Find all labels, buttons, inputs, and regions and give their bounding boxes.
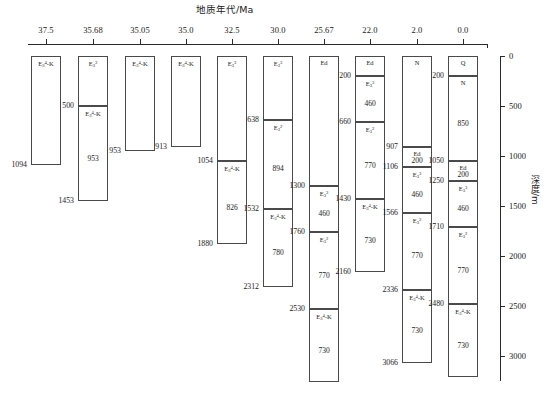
- stratigraphic-unit[interactable]: E34-K: [125, 56, 155, 151]
- unit-thickness-label: 730: [310, 347, 338, 355]
- depth-tick-label: 0: [509, 51, 513, 61]
- unit-thickness-label: 770: [449, 267, 477, 275]
- stratigraphic-unit[interactable]: Ed: [355, 56, 385, 76]
- unit-depth-label: 1054: [175, 157, 213, 165]
- unit-depth-label: 1430: [313, 195, 351, 203]
- unit-depth-label: 2480: [406, 300, 444, 308]
- stratigraphic-figure: 地质年代/Ma 深度/m 37.535.6835.0535.032.530.02…: [0, 0, 545, 407]
- depth-tick: [500, 156, 505, 157]
- unit-depth-label: 2160: [313, 268, 351, 276]
- unit-code-label: E34-K: [218, 164, 246, 174]
- unit-depth-label: 2336: [360, 286, 398, 294]
- stratigraphic-unit[interactable]: E33460: [402, 167, 432, 213]
- age-tick-label: 22.0: [362, 25, 377, 35]
- stratigraphic-unit[interactable]: E34-K730: [448, 304, 478, 377]
- depth-tick-label: 2000: [509, 251, 526, 261]
- unit-code-label: E33: [356, 79, 384, 89]
- stratigraphic-unit[interactable]: N: [402, 56, 432, 147]
- age-tick-label: 35.05: [130, 25, 150, 35]
- stratigraphic-unit[interactable]: E33: [217, 56, 247, 161]
- unit-code-label: E34-K: [79, 109, 107, 119]
- depth-axis-line: [500, 56, 501, 381]
- unit-code-label: E34-K: [310, 312, 338, 322]
- stratigraphic-unit[interactable]: E33: [263, 56, 293, 120]
- depth-tick-label: 500: [509, 101, 522, 111]
- unit-depth-label: 660: [313, 118, 351, 126]
- unit-depth-label: 500: [36, 102, 74, 110]
- unit-depth-label: 2530: [267, 305, 305, 313]
- depth-tick-label: 2500: [509, 301, 526, 311]
- stratigraphic-unit[interactable]: E34-K780: [263, 209, 293, 287]
- unit-depth-label: 1050: [406, 157, 444, 165]
- unit-depth-label: 200: [406, 72, 444, 80]
- unit-thickness-label: 200: [449, 171, 477, 179]
- unit-depth-label: 1094: [0, 161, 27, 169]
- depth-tick: [500, 106, 505, 107]
- stratigraphic-unit[interactable]: E34-K826: [217, 161, 247, 244]
- unit-code-label: E34-K: [126, 59, 154, 69]
- age-axis-line: [28, 44, 487, 45]
- age-tick-label: 0.0: [458, 25, 469, 35]
- age-tick: [463, 39, 464, 44]
- depth-tick: [500, 56, 505, 57]
- age-tick-label: 37.5: [38, 25, 53, 35]
- stratigraphic-unit[interactable]: E32894: [263, 120, 293, 209]
- stratigraphic-unit[interactable]: E33460: [448, 181, 478, 227]
- unit-depth-label: 1106: [360, 163, 398, 171]
- age-tick: [93, 39, 94, 44]
- stratigraphic-unit[interactable]: E32770: [355, 122, 385, 199]
- age-tick: [417, 39, 418, 44]
- unit-depth-label: 1453: [36, 197, 74, 205]
- age-tick-label: 32.5: [224, 25, 239, 35]
- age-axis-end-cap: [487, 44, 488, 48]
- unit-code-label: E32: [356, 125, 384, 135]
- unit-code-label: N: [449, 79, 477, 86]
- unit-code-label: E34-K: [449, 307, 477, 317]
- stratigraphic-unit[interactable]: E34-K730: [309, 309, 339, 382]
- stratigraphic-unit[interactable]: E33460: [309, 186, 339, 232]
- stratigraphic-unit[interactable]: E33460: [355, 76, 385, 122]
- unit-code-label: E32: [264, 123, 292, 133]
- stratigraphic-unit[interactable]: E32770: [448, 227, 478, 304]
- depth-tick: [500, 356, 505, 357]
- stratigraphic-unit[interactable]: Q: [448, 56, 478, 76]
- age-tick-label: 2.0: [412, 25, 423, 35]
- unit-thickness-label: 730: [356, 237, 384, 245]
- unit-code-label: E34-K: [32, 59, 60, 69]
- unit-thickness-label: 780: [264, 249, 292, 257]
- stratigraphic-unit[interactable]: E34-K: [171, 56, 201, 147]
- unit-code-label: Ed: [310, 59, 338, 66]
- unit-code-label: E32: [449, 230, 477, 240]
- unit-thickness-label: 770: [403, 252, 431, 260]
- unit-code-label: E34-K: [172, 59, 200, 69]
- age-tick: [232, 39, 233, 44]
- unit-code-label: E34-K: [264, 212, 292, 222]
- unit-code-label: E33: [449, 184, 477, 194]
- age-axis-title: 地质年代/Ma: [196, 2, 253, 16]
- age-tick: [140, 39, 141, 44]
- stratigraphic-unit[interactable]: Ed200: [448, 161, 478, 181]
- depth-tick: [500, 256, 505, 257]
- unit-depth-label: 1532: [221, 205, 259, 213]
- age-tick: [370, 39, 371, 44]
- unit-code-label: E33: [79, 59, 107, 69]
- unit-thickness-label: 894: [264, 165, 292, 173]
- age-tick: [186, 39, 187, 44]
- unit-depth-label: 1300: [267, 182, 305, 190]
- depth-tick-label: 1500: [509, 201, 526, 211]
- stratigraphic-unit[interactable]: N850: [448, 76, 478, 161]
- unit-thickness-label: 460: [449, 205, 477, 213]
- unit-thickness-label: 460: [310, 210, 338, 218]
- age-tick-label: 35.0: [178, 25, 193, 35]
- unit-depth-label: 638: [221, 116, 259, 124]
- unit-thickness-label: 730: [403, 327, 431, 335]
- stratigraphic-unit[interactable]: E33: [78, 56, 108, 106]
- age-tick: [324, 39, 325, 44]
- unit-code-label: Q: [449, 59, 477, 66]
- depth-tick-label: 3000: [509, 351, 526, 361]
- unit-depth-label: 953: [83, 147, 121, 155]
- age-tick: [46, 39, 47, 44]
- stratigraphic-unit[interactable]: E34-K: [31, 56, 61, 165]
- unit-thickness-label: 730: [449, 342, 477, 350]
- unit-code-label: E33: [264, 59, 292, 69]
